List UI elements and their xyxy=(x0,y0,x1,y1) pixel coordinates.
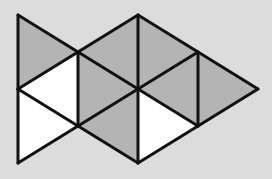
triangle-shaded-t10 xyxy=(198,52,258,126)
fish-triangle-figure xyxy=(0,0,272,179)
diagram-canvas xyxy=(0,0,272,179)
